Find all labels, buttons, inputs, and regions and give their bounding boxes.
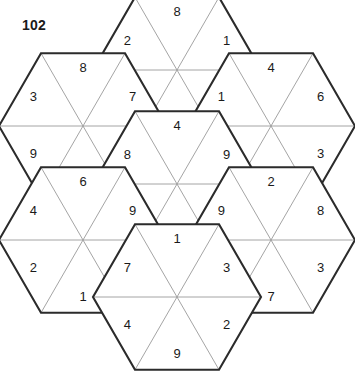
puzzle-cell-value[interactable]: 4 xyxy=(124,317,131,332)
hexagon-puzzle-figure: 1649287249386378149123849812468376923294… xyxy=(0,0,355,371)
puzzle-cell-value[interactable]: 1 xyxy=(173,231,180,246)
puzzle-cell-value[interactable]: 7 xyxy=(129,89,136,104)
puzzle-cell-value[interactable]: 2 xyxy=(223,317,230,332)
puzzle-cell-value[interactable]: 7 xyxy=(124,260,131,275)
puzzle-cell-value[interactable]: 8 xyxy=(79,60,86,75)
puzzle-cell-value[interactable]: 3 xyxy=(317,260,324,275)
puzzle-cell-value[interactable]: 8 xyxy=(317,203,324,218)
puzzle-cell-value[interactable]: 6 xyxy=(79,174,86,189)
puzzle-cell-value[interactable]: 7 xyxy=(267,289,274,304)
puzzle-cell-value[interactable]: 2 xyxy=(30,260,37,275)
puzzle-cell-value[interactable]: 4 xyxy=(30,203,37,218)
puzzle-cell-value[interactable]: 9 xyxy=(30,146,37,161)
puzzle-cell-value[interactable]: 2 xyxy=(124,33,131,48)
puzzle-cell-value[interactable]: 3 xyxy=(30,89,37,104)
puzzle-cell-value[interactable]: 1 xyxy=(223,33,230,48)
puzzle-cell-value[interactable]: 9 xyxy=(223,147,230,162)
puzzle-cell-value[interactable]: 9 xyxy=(129,203,136,218)
puzzle-cell-value[interactable]: 9 xyxy=(218,203,225,218)
puzzle-cell-value[interactable]: 8 xyxy=(173,4,180,19)
puzzle-cell-value[interactable]: 1 xyxy=(79,289,86,304)
puzzle-cell-value[interactable]: 4 xyxy=(267,60,274,75)
puzzle-cell-value[interactable]: 1 xyxy=(218,89,225,104)
puzzle-cell-value[interactable]: 3 xyxy=(223,260,230,275)
puzzle-cell-value[interactable]: 2 xyxy=(267,174,274,189)
puzzle-cell-value[interactable]: 8 xyxy=(124,147,131,162)
puzzle-cell-value[interactable]: 6 xyxy=(317,89,324,104)
puzzle-cell-value[interactable]: 3 xyxy=(317,146,324,161)
puzzle-cell-value[interactable]: 9 xyxy=(173,346,180,361)
puzzle-cell-value[interactable]: 4 xyxy=(173,118,180,133)
